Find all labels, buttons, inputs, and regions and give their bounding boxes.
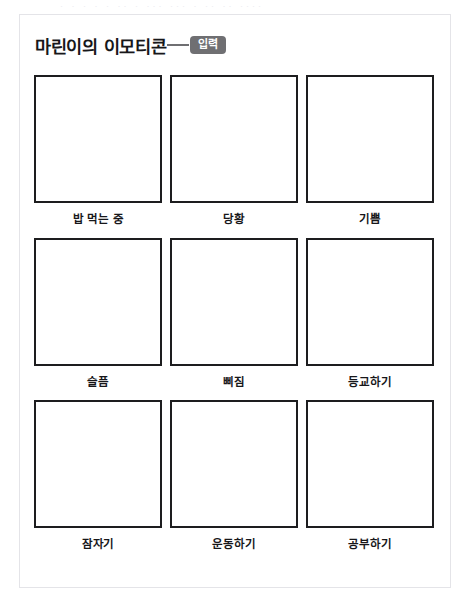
drawing-box[interactable] [306, 400, 434, 528]
worksheet-header: 마린이의 이모티콘 입력 [35, 31, 226, 59]
cell-label: 등교하기 [348, 377, 391, 389]
grid-cell: 삐짐 [170, 238, 298, 389]
drawing-box[interactable] [170, 238, 298, 366]
worksheet-card: 마린이의 이모티콘 입력 밥 먹는 중 당황 기쁨 슬픔 [19, 14, 451, 588]
drawing-box[interactable] [170, 400, 298, 528]
grid-cell: 등교하기 [306, 238, 434, 389]
grid-cell: 운동하기 [170, 400, 298, 551]
drawing-box[interactable] [170, 75, 298, 203]
cell-label: 기쁨 [359, 214, 381, 226]
page-title: 마린이의 이모티콘 [35, 33, 166, 58]
grid-cell: 슬픔 [34, 238, 162, 389]
grid-cell: 공부하기 [306, 400, 434, 551]
emoticon-grid: 밥 먹는 중 당황 기쁨 슬픔 삐짐 등교하기 [34, 75, 438, 551]
drawing-box[interactable] [306, 238, 434, 366]
grid-row: 밥 먹는 중 당황 기쁨 [34, 75, 438, 226]
drawing-box[interactable] [34, 75, 162, 203]
grid-cell: 기쁨 [306, 75, 434, 226]
grid-cell: 잠자기 [34, 400, 162, 551]
grid-cell: 당황 [170, 75, 298, 226]
drawing-box[interactable] [34, 400, 162, 528]
scan-ghost-text: · · · · · ·· · ··· ··· · ·· ·· ···· [0, 0, 470, 13]
input-badge: 입력 [190, 36, 226, 54]
cell-label: 슬픔 [87, 377, 109, 389]
drawing-box[interactable] [306, 75, 434, 203]
title-connector-line [167, 44, 189, 46]
grid-row: 슬픔 삐짐 등교하기 [34, 238, 438, 389]
drawing-box[interactable] [34, 238, 162, 366]
cell-label: 당황 [223, 214, 245, 226]
grid-row: 잠자기 운동하기 공부하기 [34, 400, 438, 551]
cell-label: 잠자기 [82, 539, 114, 551]
grid-cell: 밥 먹는 중 [34, 75, 162, 226]
cell-label: 삐짐 [223, 377, 245, 389]
cell-label: 공부하기 [348, 539, 391, 551]
cell-label: 운동하기 [212, 539, 255, 551]
cell-label: 밥 먹는 중 [73, 214, 124, 226]
